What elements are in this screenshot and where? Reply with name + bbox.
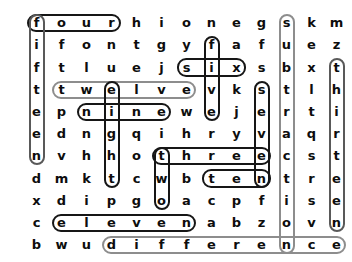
grid-cell[interactable]: j <box>149 57 175 79</box>
grid-cell[interactable]: s <box>299 190 325 212</box>
grid-cell[interactable]: t <box>199 168 225 190</box>
grid-cell[interactable]: h <box>324 79 350 101</box>
grid-cell[interactable]: g <box>149 34 175 56</box>
grid-cell[interactable]: k <box>74 168 100 190</box>
grid-cell[interactable]: i <box>99 101 125 123</box>
grid-cell[interactable]: e <box>224 145 250 167</box>
grid-cell[interactable]: e <box>149 212 175 234</box>
grid-cell[interactable]: c <box>24 212 50 234</box>
grid-cell[interactable]: n <box>174 212 200 234</box>
grid-cell[interactable]: a <box>224 34 250 56</box>
grid-cell[interactable]: h <box>124 12 150 34</box>
grid-cell[interactable]: e <box>99 79 125 101</box>
grid-cell[interactable]: o <box>74 34 100 56</box>
grid-cell[interactable]: e <box>324 234 350 256</box>
grid-cell[interactable]: t <box>299 101 325 123</box>
grid-cell[interactable]: n <box>74 123 100 145</box>
grid-cell[interactable]: r <box>274 101 300 123</box>
grid-cell[interactable]: d <box>99 234 125 256</box>
grid-cell[interactable]: s <box>274 12 300 34</box>
grid-cell[interactable]: f <box>149 234 175 256</box>
grid-cell[interactable]: z <box>249 212 275 234</box>
grid-cell[interactable]: r <box>224 234 250 256</box>
grid-cell[interactable]: r <box>199 145 225 167</box>
grid-cell[interactable]: m <box>49 168 75 190</box>
grid-cell[interactable]: e <box>324 168 350 190</box>
grid-cell[interactable]: h <box>174 123 200 145</box>
grid-cell[interactable]: w <box>49 234 75 256</box>
grid-cell[interactable]: x <box>224 57 250 79</box>
grid-cell[interactable]: d <box>24 168 50 190</box>
grid-cell[interactable]: r <box>99 12 125 34</box>
grid-cell[interactable]: m <box>324 12 350 34</box>
grid-cell[interactable]: k <box>224 79 250 101</box>
grid-cell[interactable]: y <box>224 123 250 145</box>
grid-cell[interactable]: e <box>324 190 350 212</box>
grid-cell[interactable]: h <box>74 145 100 167</box>
grid-cell[interactable]: p <box>99 190 125 212</box>
grid-cell[interactable]: r <box>324 123 350 145</box>
grid-cell[interactable]: w <box>149 168 175 190</box>
grid-cell[interactable]: e <box>249 101 275 123</box>
grid-cell[interactable]: c <box>199 190 225 212</box>
grid-cell[interactable]: e <box>99 212 125 234</box>
grid-cell[interactable]: b <box>174 168 200 190</box>
grid-cell[interactable]: e <box>124 57 150 79</box>
grid-cell[interactable]: n <box>74 101 100 123</box>
grid-cell[interactable]: n <box>274 234 300 256</box>
grid-cell[interactable]: q <box>299 123 325 145</box>
grid-cell[interactable]: x <box>24 190 50 212</box>
grid-cell[interactable]: c <box>124 168 150 190</box>
grid-cell[interactable]: s <box>299 145 325 167</box>
grid-cell[interactable]: o <box>124 145 150 167</box>
grid-cell[interactable]: d <box>49 123 75 145</box>
grid-cell[interactable]: i <box>149 123 175 145</box>
grid-cell[interactable]: q <box>124 123 150 145</box>
grid-cell[interactable]: a <box>174 190 200 212</box>
grid-cell[interactable]: t <box>49 57 75 79</box>
grid-cell[interactable]: k <box>299 12 325 34</box>
grid-cell[interactable]: e <box>49 212 75 234</box>
grid-cell[interactable]: l <box>299 79 325 101</box>
grid-cell[interactable]: e <box>224 168 250 190</box>
grid-cell[interactable]: u <box>99 57 125 79</box>
grid-cell[interactable]: s <box>174 57 200 79</box>
grid-cell[interactable]: t <box>324 57 350 79</box>
grid-cell[interactable]: n <box>324 212 350 234</box>
grid-cell[interactable]: e <box>24 101 50 123</box>
grid-cell[interactable]: b <box>274 57 300 79</box>
grid-cell[interactable]: f <box>199 34 225 56</box>
grid-cell[interactable]: c <box>299 234 325 256</box>
grid-cell[interactable]: i <box>324 101 350 123</box>
grid-cell[interactable]: p <box>49 101 75 123</box>
grid-cell[interactable]: e <box>224 12 250 34</box>
grid-cell[interactable]: e <box>249 234 275 256</box>
grid-cell[interactable]: z <box>324 34 350 56</box>
grid-cell[interactable]: h <box>174 145 200 167</box>
grid-cell[interactable]: l <box>74 57 100 79</box>
grid-cell[interactable]: g <box>124 190 150 212</box>
grid-cell[interactable]: n <box>199 12 225 34</box>
grid-cell[interactable]: w <box>174 101 200 123</box>
grid-cell[interactable]: p <box>224 190 250 212</box>
grid-cell[interactable]: e <box>199 234 225 256</box>
grid-cell[interactable]: t <box>99 168 125 190</box>
grid-cell[interactable]: f <box>24 57 50 79</box>
grid-cell[interactable]: t <box>49 79 75 101</box>
grid-cell[interactable]: o <box>49 12 75 34</box>
grid-cell[interactable]: w <box>74 79 100 101</box>
grid-cell[interactable]: t <box>274 79 300 101</box>
grid-cell[interactable]: t <box>149 145 175 167</box>
grid-cell[interactable]: i <box>274 190 300 212</box>
grid-cell[interactable]: f <box>174 234 200 256</box>
grid-cell[interactable]: l <box>74 212 100 234</box>
grid-cell[interactable]: d <box>49 190 75 212</box>
grid-cell[interactable]: u <box>74 12 100 34</box>
grid-cell[interactable]: t <box>124 34 150 56</box>
grid-cell[interactable]: n <box>249 168 275 190</box>
grid-cell[interactable]: s <box>249 79 275 101</box>
grid-cell[interactable]: e <box>149 101 175 123</box>
grid-cell[interactable]: u <box>274 34 300 56</box>
grid-cell[interactable]: v <box>299 212 325 234</box>
grid-cell[interactable]: t <box>24 79 50 101</box>
